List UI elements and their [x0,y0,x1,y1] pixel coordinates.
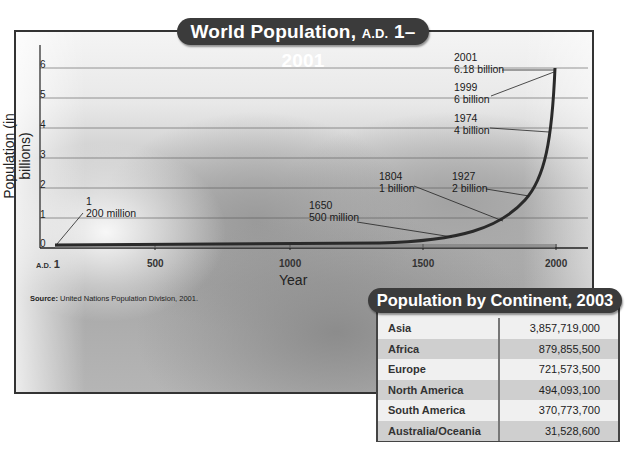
table-row: Asia3,857,719,000 [378,318,618,339]
annotation-1974: 19744 billion [454,112,490,136]
x-tick-1500: 1500 [412,258,434,269]
annotation-1999: 19996 billion [454,81,490,105]
chart-title-era: A.D. [362,26,389,41]
table-row: South America370,773,700 [378,400,618,421]
source-note: Source: United Nations Population Divisi… [30,294,198,303]
y-axis-label: Population (in billions) [1,101,33,211]
table-row: Africa879,855,500 [378,339,618,360]
annotation-ad1: 1200 million [86,195,136,219]
x-tick-500: 500 [147,258,164,269]
y-tick-2: 2 [40,179,46,190]
y-tick-4: 4 [40,119,46,130]
x-tick-1000: 1000 [279,258,301,269]
y-tick-1: 1 [40,209,46,220]
chart-title-main: World Population, [191,21,362,42]
y-tick-5: 5 [40,89,46,100]
chart-title: World Population, A.D. 1–2001 [177,18,429,45]
x-axis-label: Year [279,272,307,288]
table-row: Europe721,573,500 [378,359,618,380]
annotation-1804: 18041 billion [379,170,415,194]
annotation-2001: 20016.18 billion [454,51,504,75]
table-row: North America494,093,100 [378,380,618,401]
y-tick-0: 0 [40,238,46,249]
continent-table: Population by Continent, 2003 Asia3,857,… [376,288,622,444]
y-tick-3: 3 [40,149,46,160]
table-body: Asia3,857,719,000 Africa879,855,500 Euro… [376,300,620,442]
annotation-1650: 1650500 million [309,199,359,223]
x-tick-ad1: A.D. 1 [36,258,60,270]
table-row: Australia/Oceania31,528,600 [378,421,618,442]
annotation-1927: 19272 billion [452,170,488,194]
table-title: Population by Continent, 2003 [368,288,622,313]
y-tick-6: 6 [40,59,46,70]
x-tick-2000: 2000 [545,258,567,269]
